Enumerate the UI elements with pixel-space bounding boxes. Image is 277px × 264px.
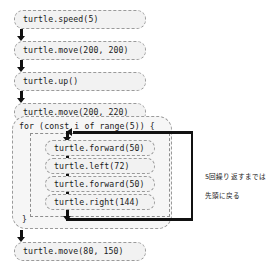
loop-annotation: 5回繰り返すまでは 先頭に戻る [205,163,271,211]
for-loop-header-text: for (const i of range(5)) { [19,122,155,130]
statement-box-forward-1: turtle.forward(50) [45,140,155,156]
statement-box-left: turtle.left(72) [45,158,155,174]
flowchart-canvas: turtle.speed(5) turtle.move(200, 200) tu… [0,0,277,264]
statement-text: turtle.move(200, 200) [23,46,129,54]
statement-text: turtle.forward(50) [54,180,145,188]
loop-back-top-segment [73,131,192,134]
flow-arrow-1 [17,29,26,41]
loop-annotation-line-1: 5回繰り返すまでは [205,173,271,183]
statement-box-right: turtle.right(144) [45,194,155,210]
loop-back-right-segment [191,131,194,220]
statement-box-move-80-150: turtle.move(80, 150) [14,242,146,261]
loop-back-bottom-segment [66,218,193,221]
statement-box-forward-2: turtle.forward(50) [45,176,155,192]
flow-arrow-2 [17,60,26,72]
statement-box-up: turtle.up() [14,72,146,91]
statement-text: turtle.move(80, 150) [23,247,124,255]
statement-text: turtle.up() [23,77,78,85]
statement-text: turtle.right(144) [54,198,140,206]
statement-text: turtle.speed(5) [23,15,98,23]
statement-box-move-200-200: turtle.move(200, 200) [14,41,146,60]
flow-arrow-3 [17,91,26,103]
loop-annotation-line-2: 先頭に戻る [205,192,271,202]
statement-box-speed: turtle.speed(5) [14,10,146,29]
statement-text: turtle.forward(50) [54,144,145,152]
loop-back-arrowhead [66,128,72,136]
for-loop-closing-brace: } [22,215,27,223]
statement-text: turtle.left(72) [54,162,129,170]
flow-arrow-6 [17,230,26,242]
